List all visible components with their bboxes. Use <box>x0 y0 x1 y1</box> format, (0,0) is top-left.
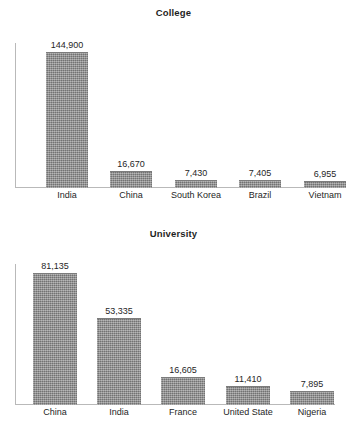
category-label: South Korea <box>171 190 221 201</box>
category-label: Brazil <box>249 190 272 201</box>
bar[interactable] <box>110 171 152 188</box>
chart-university: University 81,13553,33516,60511,4107,895… <box>0 220 347 438</box>
category-label: India <box>57 190 77 201</box>
bar-group: 53,335 <box>97 265 141 405</box>
bar-group: 7,430 <box>175 44 217 188</box>
bar-value-label: 7,895 <box>301 379 324 390</box>
category-label: Nigeria <box>298 407 327 418</box>
bar-value-label: 7,430 <box>185 168 208 179</box>
bar[interactable] <box>97 318 141 405</box>
category-label: China <box>119 190 143 201</box>
bar-group: 7,895 <box>290 265 334 405</box>
bar[interactable] <box>239 180 281 188</box>
bar[interactable] <box>46 52 88 188</box>
category-label: Vietnam <box>309 190 342 201</box>
bar-group: 81,135 <box>33 265 77 405</box>
bar-group: 16,670 <box>110 44 152 188</box>
category-label: China <box>43 407 67 418</box>
bar-group: 6,955 <box>304 44 346 188</box>
bar-value-label: 16,605 <box>169 365 197 376</box>
bar[interactable] <box>290 391 334 405</box>
chart-university-bars: 81,13553,33516,60511,4107,895 <box>15 264 335 405</box>
chart-university-category-labels: ChinaIndiaFranceUnited StateNigeria <box>15 407 335 423</box>
bar[interactable] <box>175 180 217 188</box>
bar-value-label: 53,335 <box>105 306 133 317</box>
chart-college: College 144,90016,6707,4307,4056,955 Ind… <box>0 0 347 220</box>
bar-value-label: 81,135 <box>41 261 69 272</box>
chart-college-bars: 144,90016,6707,4307,4056,955 <box>15 43 335 188</box>
bar[interactable] <box>161 377 205 405</box>
bar[interactable] <box>226 386 270 405</box>
category-label: India <box>109 407 129 418</box>
chart-university-title: University <box>0 228 347 239</box>
bar[interactable] <box>33 273 77 405</box>
category-label: France <box>169 407 197 418</box>
bar-group: 7,405 <box>239 44 281 188</box>
bar-group: 11,410 <box>226 265 270 405</box>
bar-value-label: 11,410 <box>235 374 262 385</box>
chart-university-plot-area: 81,13553,33516,60511,4107,895 <box>15 264 335 405</box>
bar-group: 144,900 <box>46 44 88 188</box>
chart-college-plot-area: 144,90016,6707,4307,4056,955 <box>15 43 335 188</box>
bar[interactable] <box>304 181 346 188</box>
bar-group: 16,605 <box>161 265 205 405</box>
bar-value-label: 6,955 <box>314 169 337 180</box>
bar-value-label: 16,670 <box>117 159 145 170</box>
bar-value-label: 7,405 <box>249 168 272 179</box>
category-label: United State <box>223 407 273 418</box>
chart-college-category-labels: IndiaChinaSouth KoreaBrazilVietnam <box>15 190 335 206</box>
chart-college-title: College <box>0 7 347 18</box>
bar-value-label: 144,900 <box>51 40 84 51</box>
